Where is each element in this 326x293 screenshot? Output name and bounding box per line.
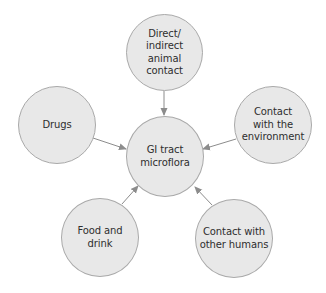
node-animal-contact: Direct/ indirect animal contact <box>126 14 203 91</box>
node-other-humans: Contact with other humans <box>195 199 273 278</box>
node-drugs-label: Drugs <box>42 119 71 132</box>
arrow-food-to-center <box>122 186 138 204</box>
arrow-humans-to-center <box>195 187 212 205</box>
node-other-humans-label: Contact with other humans <box>200 226 269 251</box>
node-gi-tract-center: GI tract microflora <box>126 116 204 197</box>
node-gi-tract-label: GI tract microflora <box>140 144 190 169</box>
node-food-drink-label: Food and drink <box>77 225 122 250</box>
node-environment-label: Contact with the environment <box>242 106 305 144</box>
arrow-drugs-to-center <box>93 138 126 149</box>
node-drugs: Drugs <box>18 86 96 164</box>
node-food-drink: Food and drink <box>61 198 139 277</box>
influences-diagram: Direct/ indirect animal contact Drugs Co… <box>0 0 326 293</box>
arrow-environment-to-center <box>203 139 236 149</box>
node-environment: Contact with the environment <box>234 86 312 164</box>
node-animal-contact-label: Direct/ indirect animal contact <box>146 28 183 78</box>
